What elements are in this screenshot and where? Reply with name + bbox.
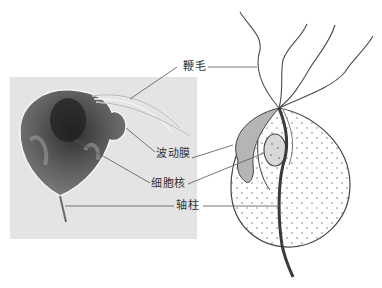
leader-membrane-drawing xyxy=(192,145,233,158)
photo-dark-nucleus-region xyxy=(50,98,86,142)
label-flagella: 鞭毛 xyxy=(183,61,206,73)
trichomonas-figure xyxy=(0,0,382,288)
drawing-flagella xyxy=(240,12,373,108)
label-undulating-membrane: 波动膜 xyxy=(156,148,191,160)
drawing-panel xyxy=(231,12,373,277)
label-axostyle: 轴柱 xyxy=(176,200,199,212)
label-nucleus: 细胞核 xyxy=(151,178,186,190)
